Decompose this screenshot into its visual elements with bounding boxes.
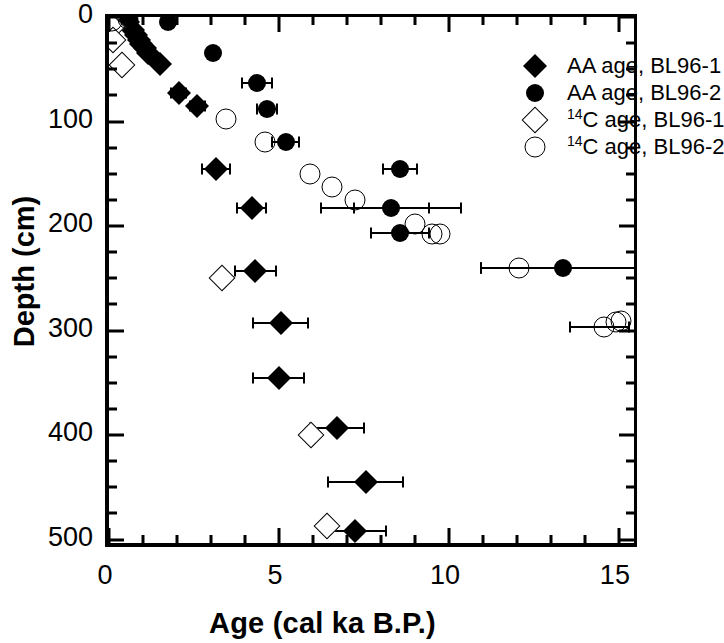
y-axis-title: Depth (cm) bbox=[8, 152, 41, 392]
x-top-tick bbox=[175, 17, 178, 25]
wide-error-cap bbox=[460, 203, 462, 214]
x-tick-label: 15 bbox=[600, 560, 630, 591]
x-axis-title: Age (cal ka B.P.) bbox=[0, 607, 645, 640]
y-right-tick bbox=[626, 486, 634, 489]
y-left-tick bbox=[109, 355, 117, 358]
x-bottom-tick bbox=[481, 535, 484, 543]
filled-circle-marker bbox=[391, 160, 409, 178]
y-left-tick bbox=[109, 538, 124, 541]
filled-circle-marker-error-cap bbox=[298, 137, 300, 148]
plot-frame: AA age, BL96-1AA age, BL96-214C age, BL9… bbox=[105, 14, 637, 547]
legend-item-label: AA age, BL96-1 bbox=[567, 53, 721, 79]
y-right-tick bbox=[619, 538, 634, 541]
x-bottom-tick bbox=[549, 535, 552, 543]
filled-circle-marker bbox=[554, 259, 572, 277]
filled-diamond-marker-error-cap bbox=[229, 163, 231, 174]
filled-diamond-marker bbox=[269, 311, 293, 335]
y-left-tick bbox=[109, 407, 117, 410]
open-circle-marker bbox=[345, 189, 366, 210]
x-bottom-tick bbox=[209, 535, 212, 543]
plot-area bbox=[109, 17, 634, 543]
filled-diamond-marker bbox=[243, 259, 267, 283]
y-left-tick bbox=[109, 198, 117, 201]
filled-circle-marker bbox=[204, 44, 222, 62]
y-tick-label: 400 bbox=[48, 417, 93, 448]
filled-circle-marker-error-cap bbox=[370, 228, 372, 239]
open-diamond-marker bbox=[313, 513, 340, 540]
y-left-tick bbox=[109, 42, 117, 45]
open-circle-marker bbox=[508, 257, 529, 278]
y-left-tick bbox=[109, 225, 124, 228]
y-left-tick bbox=[109, 434, 124, 437]
filled-diamond-marker bbox=[240, 196, 264, 220]
x-bottom-tick bbox=[311, 535, 314, 543]
y-left-tick bbox=[109, 486, 117, 489]
filled-diamond-marker bbox=[185, 94, 209, 118]
y-tick-label: 300 bbox=[48, 312, 93, 343]
filled-diamond-marker-error-cap bbox=[234, 265, 236, 276]
filled-diamond-marker-error-cap bbox=[402, 477, 404, 488]
y-left-tick bbox=[109, 16, 124, 19]
y-left-tick bbox=[109, 329, 124, 332]
filled-diamond-marker-error-cap bbox=[236, 203, 238, 214]
y-right-tick bbox=[626, 42, 634, 45]
x-top-tick bbox=[379, 17, 382, 25]
open-circle-marker bbox=[430, 224, 451, 245]
y-right-tick bbox=[626, 251, 634, 254]
filled-diamond-marker-error-cap bbox=[303, 372, 305, 383]
open-circle-marker bbox=[255, 132, 276, 153]
x-top-tick bbox=[549, 17, 552, 25]
filled-circle-marker-error-cap bbox=[428, 203, 430, 214]
x-tick-label: 10 bbox=[430, 560, 460, 591]
x-top-tick bbox=[617, 17, 620, 32]
x-top-tick bbox=[447, 17, 450, 32]
y-right-tick bbox=[626, 277, 634, 280]
x-bottom-tick bbox=[447, 528, 450, 543]
x-tick-label: 5 bbox=[267, 560, 282, 591]
legend-filled-circle-marker bbox=[526, 84, 544, 102]
x-top-tick bbox=[413, 17, 416, 25]
open-diamond-marker bbox=[109, 52, 135, 79]
x-bottom-tick bbox=[243, 535, 246, 543]
y-right-tick bbox=[626, 381, 634, 384]
wide-error-cap bbox=[569, 322, 571, 333]
y-right-tick bbox=[626, 303, 634, 306]
open-diamond-marker bbox=[208, 265, 235, 292]
filled-circle-marker bbox=[277, 133, 295, 151]
filled-circle-marker bbox=[382, 199, 400, 217]
y-left-tick bbox=[109, 381, 117, 384]
y-left-tick bbox=[109, 460, 117, 463]
y-left-tick bbox=[109, 512, 117, 515]
x-top-tick bbox=[515, 17, 518, 25]
y-tick-label: 500 bbox=[48, 521, 93, 552]
open-circle-marker bbox=[321, 177, 342, 198]
y-right-tick bbox=[626, 198, 634, 201]
filled-diamond-marker-error-cap bbox=[252, 372, 254, 383]
x-top-tick bbox=[243, 17, 246, 25]
filled-diamond-marker-error-cap bbox=[327, 477, 329, 488]
y-left-tick bbox=[109, 277, 117, 280]
x-top-tick bbox=[583, 17, 586, 25]
x-bottom-tick bbox=[277, 528, 280, 543]
filled-diamond-marker-error-cap bbox=[275, 265, 277, 276]
filled-diamond-marker bbox=[354, 470, 378, 494]
filled-diamond-marker bbox=[167, 81, 191, 105]
y-right-tick bbox=[626, 512, 634, 515]
x-bottom-tick bbox=[515, 535, 518, 543]
filled-circle-marker bbox=[258, 100, 276, 118]
filled-diamond-marker-error-cap bbox=[363, 422, 365, 433]
legend-superscript: 14 bbox=[567, 106, 583, 122]
filled-diamond-marker-error-cap bbox=[265, 203, 267, 214]
legend-item-label: AA age, BL96-2 bbox=[567, 80, 721, 106]
filled-diamond-marker-error-cap bbox=[307, 318, 309, 329]
y-left-tick bbox=[109, 303, 117, 306]
x-top-tick bbox=[345, 17, 348, 25]
y-left-tick bbox=[109, 146, 117, 149]
filled-circle-marker-error-cap bbox=[416, 163, 418, 174]
x-bottom-tick bbox=[583, 535, 586, 543]
filled-diamond-marker-error-cap bbox=[252, 318, 254, 329]
y-right-tick bbox=[626, 355, 634, 358]
filled-circle-marker-error-cap bbox=[241, 77, 243, 88]
filled-circle-marker-error-cap bbox=[480, 262, 482, 273]
